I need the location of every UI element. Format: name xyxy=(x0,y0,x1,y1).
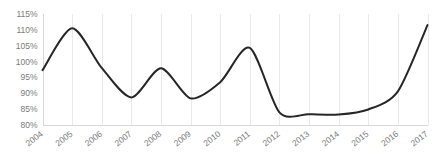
y-axis-tick-labels: 115%110%105%100%95%90%85%80% xyxy=(16,9,38,130)
x-tick-label: 2015 xyxy=(349,129,370,149)
x-tick-label: 2014 xyxy=(320,129,341,149)
y-tick-label: 90% xyxy=(20,88,37,98)
y-tick-label: 80% xyxy=(20,120,37,130)
x-tick-label: 2005 xyxy=(53,129,74,149)
x-tick-label: 2013 xyxy=(290,129,311,149)
x-tick-label: 2012 xyxy=(261,129,282,149)
y-tick-label: 105% xyxy=(16,41,38,51)
x-tick-label: 2007 xyxy=(113,129,134,149)
data-series-line xyxy=(43,25,428,117)
x-tick-label: 2017 xyxy=(409,129,430,149)
chart-canvas: 115%110%105%100%95%90%85%80% 20042005200… xyxy=(0,0,441,161)
x-tick-label: 2011 xyxy=(231,129,252,148)
x-tick-label: 2006 xyxy=(83,129,104,149)
y-tick-label: 100% xyxy=(16,57,38,67)
x-tick-label: 2008 xyxy=(142,129,163,149)
y-tick-label: 95% xyxy=(20,72,37,82)
y-tick-label: 110% xyxy=(16,25,38,35)
y-tick-label: 115% xyxy=(16,9,38,19)
x-tick-label: 2009 xyxy=(172,129,193,149)
x-tick-label: 2016 xyxy=(379,129,400,149)
x-tick-label: 2010 xyxy=(201,129,222,149)
y-tick-label: 85% xyxy=(20,104,37,114)
x-tick-label: 2004 xyxy=(24,129,45,149)
x-axis-tick-labels: 2004200520062007200820092010201120122013… xyxy=(24,129,430,149)
line-chart: 115%110%105%100%95%90%85%80% 20042005200… xyxy=(0,0,441,161)
